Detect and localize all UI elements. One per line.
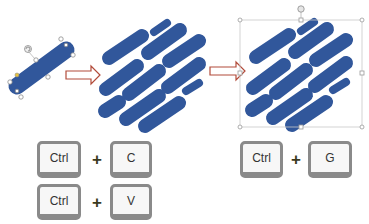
key-label: G xyxy=(325,151,334,165)
grouped-pill-pattern[interactable] xyxy=(252,22,346,125)
key-v: V xyxy=(110,184,152,220)
key-g: G xyxy=(308,141,352,178)
duplicated-pill-pattern[interactable] xyxy=(105,23,199,126)
key-label: Ctrl xyxy=(50,151,69,165)
plus-sign: + xyxy=(291,151,301,168)
key-c: C xyxy=(110,141,152,178)
key-label: V xyxy=(127,194,135,208)
key-label: C xyxy=(127,151,136,165)
key-label: Ctrl xyxy=(50,194,69,208)
adjust-handle-icon[interactable] xyxy=(15,73,19,77)
key-ctrl-paste: Ctrl xyxy=(37,184,81,220)
plus-sign: + xyxy=(92,151,102,168)
plus-sign: + xyxy=(92,194,102,211)
key-label: Ctrl xyxy=(252,151,271,165)
original-pill-shape[interactable] xyxy=(17,50,66,86)
key-ctrl-copy: Ctrl xyxy=(37,141,81,178)
group-rotate-handle-icon[interactable] xyxy=(298,6,304,18)
arrow-right-icon xyxy=(66,66,100,84)
key-ctrl-group: Ctrl xyxy=(240,141,283,178)
rotate-handle-icon[interactable] xyxy=(25,46,36,60)
